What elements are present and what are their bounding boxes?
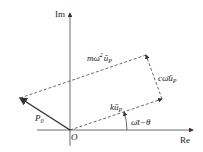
angle-arc bbox=[124, 112, 127, 130]
m-omega2-up-label: mω̄2ūP bbox=[87, 52, 112, 64]
phasor-diagram: Im Re O P0 kūP cω̄ūP mω̄2ūP ω̄t−θ bbox=[0, 0, 203, 152]
origin-label: O bbox=[71, 132, 78, 142]
p0-vector bbox=[20, 98, 70, 130]
re-axis-label: Re bbox=[180, 135, 190, 145]
im-axis-label: Im bbox=[55, 9, 65, 19]
c-omega-up-label: cω̄ūP bbox=[158, 73, 177, 84]
diagram-canvas: Im Re O P0 kūP cω̄ūP mω̄2ūP ω̄t−θ bbox=[0, 0, 203, 152]
p0-label: P0 bbox=[34, 113, 44, 124]
k-up-label: kūP bbox=[110, 102, 123, 113]
m-omega2-up-vector bbox=[20, 55, 146, 98]
angle-label: ω̄t−θ bbox=[131, 117, 151, 127]
